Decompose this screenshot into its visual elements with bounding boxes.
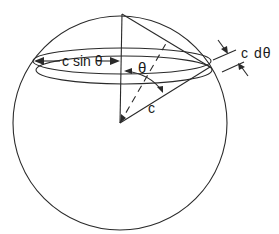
theta-arrow-left-icon <box>124 68 132 74</box>
theta-arrow-right-icon <box>157 86 163 93</box>
cone-edge-top <box>122 14 210 67</box>
dashed-radius <box>120 40 168 123</box>
label-c: c <box>148 100 155 116</box>
arrow-down-icon <box>221 46 228 54</box>
arrow-right-icon <box>110 57 120 65</box>
radius-line <box>120 67 210 123</box>
label-c-sin-theta: c sin θ <box>62 53 103 69</box>
polar-axis <box>120 14 122 123</box>
label-c-d-theta: c dθ <box>241 45 271 61</box>
label-theta: θ <box>138 59 146 76</box>
arrow-up-icon <box>238 63 245 70</box>
sphere-diagram: c sin θ θ c c dθ <box>0 0 279 234</box>
